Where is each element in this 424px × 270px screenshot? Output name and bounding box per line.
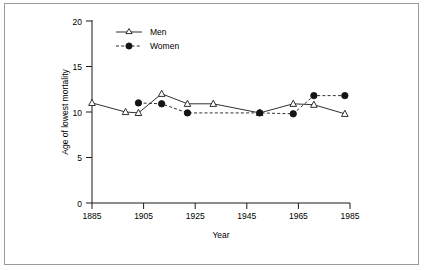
data-point-women-1912	[158, 101, 164, 107]
y-axis-title: Age of lowest mortality	[60, 69, 70, 155]
chart-figure: 20 15 10 5 0 1885 1905 1925 1945 1965 19…	[0, 0, 424, 270]
y-tick-label-20: 20	[73, 17, 83, 27]
data-point-women-1971	[311, 92, 317, 98]
data-point-men-1963	[290, 100, 297, 106]
legend-label-men: Men	[150, 27, 167, 37]
y-tick-label-0: 0	[77, 199, 82, 209]
x-tick-label-1945: 1945	[237, 211, 256, 221]
x-tick-label-1985: 1985	[341, 211, 360, 221]
y-tick-label-10: 10	[73, 108, 83, 118]
data-point-women-1963	[290, 111, 296, 117]
data-point-men-1912	[158, 90, 165, 96]
x-tick-label-1965: 1965	[289, 211, 308, 221]
y-tick-label-5: 5	[77, 153, 82, 163]
chart-legend: Men Women	[116, 27, 179, 51]
series-line-men	[92, 94, 345, 114]
data-point-women-1950	[257, 110, 263, 116]
data-point-men-1932	[210, 100, 217, 106]
y-tick-label-15: 15	[73, 62, 83, 72]
x-axis-title: Year	[212, 230, 229, 240]
data-point-women-1903	[135, 100, 141, 106]
x-tick-label-1925: 1925	[186, 211, 205, 221]
x-tick-label-1905: 1905	[134, 211, 153, 221]
data-point-men-1885	[89, 99, 96, 105]
data-point-women-1922	[184, 110, 190, 116]
x-tick-label-1885: 1885	[83, 211, 102, 221]
line-chart: 20 15 10 5 0 1885 1905 1925 1945 1965 19…	[0, 0, 424, 270]
x-axis-ticks	[92, 203, 350, 209]
data-series-layer	[89, 90, 348, 117]
legend-label-women: Women	[150, 41, 179, 51]
legend-women-marker	[126, 43, 132, 49]
legend-men-marker	[126, 29, 132, 34]
data-point-women-1983	[342, 92, 348, 98]
y-axis-ticks	[86, 21, 92, 203]
